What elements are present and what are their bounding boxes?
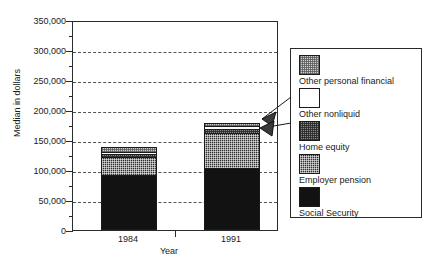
legend-item-home-equity[interactable]: Home equity bbox=[299, 121, 419, 152]
y-axis-tick-label: 0 bbox=[8, 226, 66, 236]
bar-segment-social-security bbox=[101, 175, 157, 230]
bar-segment-other-personal-financial bbox=[101, 147, 157, 152]
x-axis-title: Year bbox=[60, 246, 278, 256]
legend-item-other-nonliquid[interactable]: Other nonliquid bbox=[299, 88, 419, 119]
x-axis-tick-mark bbox=[175, 231, 176, 237]
bar-segment-home-equity bbox=[101, 154, 157, 157]
legend-swatch-icon bbox=[299, 121, 320, 141]
chart-root: Median in dollars Year 050,000100,000150… bbox=[0, 0, 429, 267]
legend-label: Employer pension bbox=[299, 175, 419, 185]
bar-1991 bbox=[204, 20, 260, 230]
y-axis-tick-label: 50,000 bbox=[8, 196, 66, 206]
y-axis-tick-label: 250,000 bbox=[8, 76, 66, 86]
bar-1984 bbox=[101, 20, 157, 230]
legend-label: Home equity bbox=[299, 142, 419, 152]
x-axis-label-1984: 1984 bbox=[93, 234, 163, 244]
y-axis-tick-label: 350,000 bbox=[8, 16, 66, 26]
bar-segment-other-nonliquid bbox=[101, 152, 157, 154]
x-axis-label-1991: 1991 bbox=[196, 234, 266, 244]
legend-item-social-security[interactable]: Social Security bbox=[299, 187, 419, 218]
bar-segment-home-equity bbox=[204, 129, 260, 134]
bar-segment-other-nonliquid bbox=[204, 126, 260, 128]
y-axis-tick-label: 300,000 bbox=[8, 46, 66, 56]
y-axis-tick-label: 200,000 bbox=[8, 106, 66, 116]
plot-area bbox=[72, 21, 278, 231]
legend-label: Other nonliquid bbox=[299, 109, 419, 119]
legend-label: Other personal financial bbox=[299, 76, 419, 86]
legend-item-other-personal-financial[interactable]: Other personal financial bbox=[299, 55, 419, 86]
legend-item-employer-pension[interactable]: Employer pension bbox=[299, 154, 419, 185]
bar-segment-employer-pension bbox=[101, 157, 157, 176]
legend-swatch-icon bbox=[299, 187, 320, 207]
y-axis-tick-mark bbox=[66, 231, 73, 232]
legend-box: Other personal financialOther nonliquidH… bbox=[290, 48, 422, 218]
legend-swatch-icon bbox=[299, 88, 320, 108]
y-axis-tick-label: 150,000 bbox=[8, 136, 66, 146]
legend-swatch-icon bbox=[299, 55, 320, 75]
legend-label: Social Security bbox=[299, 208, 419, 218]
bar-segment-social-security bbox=[204, 168, 260, 230]
bar-segment-employer-pension bbox=[204, 133, 260, 168]
bar-segment-other-personal-financial bbox=[204, 123, 260, 127]
legend-swatch-icon bbox=[299, 154, 320, 174]
y-axis-tick-label: 100,000 bbox=[8, 166, 66, 176]
